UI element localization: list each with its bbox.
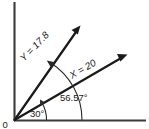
vector-x-label: X = 20 — [67, 57, 99, 82]
vector-y-label: Y = 17.8 — [18, 29, 52, 63]
vector-y-line — [15, 31, 78, 121]
origin-label: 0 — [3, 119, 8, 129]
vector-y-arrowhead — [72, 26, 81, 35]
angle-30-label: 30° — [30, 108, 45, 119]
vector-diagram-figure: 0 Y = 17.8 X = 20 30° 56.57° — [0, 0, 149, 129]
angle-5657-label: 56.57° — [60, 92, 88, 103]
vector-diagram-canvas: 0 Y = 17.8 X = 20 30° 56.57° — [0, 0, 149, 129]
